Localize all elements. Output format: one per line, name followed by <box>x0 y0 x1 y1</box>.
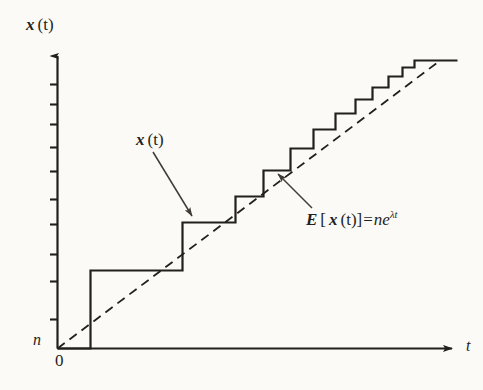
expectation-exponent: λt <box>390 209 398 220</box>
sample-path-leader-line <box>153 152 192 216</box>
expectation-argument: (t) <box>341 210 357 229</box>
expectation-bracket-open: [ <box>320 210 326 229</box>
expectation-base: e <box>382 210 390 229</box>
sample-path-leader <box>153 152 192 216</box>
mean-dashed-line <box>58 63 438 349</box>
sample-path-annotation-variable: x <box>136 130 145 149</box>
sample-path-annotation-argument: (t) <box>148 130 164 149</box>
y-axis-label-variable: x <box>26 15 35 34</box>
x-axis-label: t <box>466 338 470 354</box>
axes-group <box>58 56 453 349</box>
expectation-leader <box>278 174 312 208</box>
expectation-variable: x <box>329 210 338 229</box>
y-axis-ticks <box>50 85 58 320</box>
sample-path-curve <box>58 61 458 349</box>
y-axis-label: x(t) <box>26 16 54 33</box>
staircase-polyline <box>58 61 458 349</box>
sample-path-annotation: x(t) <box>136 131 164 148</box>
expectation-equals: = <box>362 210 374 229</box>
x-axis-origin-label: 0 <box>55 352 64 369</box>
y-axis-origin-label: n <box>33 332 41 348</box>
expectation-operator: E <box>306 210 317 229</box>
y-axis-label-argument: (t) <box>38 15 54 34</box>
figure-canvas <box>0 0 483 390</box>
expectation-annotation: E[x(t)]=neλt <box>306 210 397 228</box>
expectation-curve <box>58 63 438 349</box>
figure-container: x(t) n 0 t x(t) E[x(t)]=neλt <box>0 0 483 390</box>
expectation-leader-line <box>278 174 312 208</box>
